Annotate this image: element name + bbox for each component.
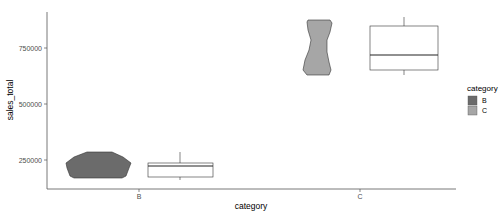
boxplot-b bbox=[148, 152, 213, 180]
x-tick-label-c: C bbox=[357, 193, 362, 200]
boxplot-c bbox=[370, 17, 438, 75]
y-axis-title: sales_total bbox=[5, 80, 15, 121]
legend-label-c: C bbox=[482, 107, 487, 114]
x-axis-title: category bbox=[235, 201, 268, 211]
legend-title: category bbox=[467, 84, 498, 93]
y-tick-label: 250000 bbox=[19, 157, 42, 164]
violin-c bbox=[303, 20, 332, 75]
violin-b bbox=[66, 152, 131, 178]
legend-swatch-b bbox=[468, 96, 477, 105]
x-axis-ticks: B C bbox=[137, 189, 363, 200]
x-tick-label-b: B bbox=[137, 193, 142, 200]
legend-label-b: B bbox=[482, 97, 487, 104]
legend-swatch-c bbox=[468, 106, 477, 115]
y-axis-ticks: 750000 500000 250000 bbox=[19, 45, 47, 164]
y-tick-label: 500000 bbox=[19, 101, 42, 108]
legend: category B C bbox=[467, 84, 498, 115]
violin-box-chart: 750000 500000 250000 B C category sales_… bbox=[0, 0, 503, 217]
y-tick-label: 750000 bbox=[19, 45, 42, 52]
